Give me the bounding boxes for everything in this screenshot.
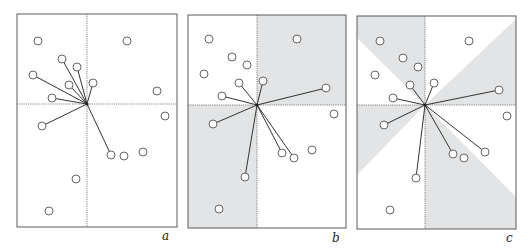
data-point bbox=[235, 79, 243, 87]
data-point bbox=[389, 94, 397, 102]
data-point bbox=[200, 70, 208, 78]
data-point bbox=[107, 151, 115, 159]
data-point bbox=[139, 148, 147, 156]
data-point bbox=[412, 174, 420, 182]
data-point bbox=[308, 146, 316, 154]
panel-label: b bbox=[332, 231, 340, 245]
panel-c: c bbox=[357, 16, 516, 245]
data-point bbox=[241, 173, 249, 181]
data-point bbox=[293, 35, 301, 43]
data-point bbox=[380, 121, 388, 129]
data-point bbox=[34, 37, 42, 45]
data-point bbox=[161, 112, 169, 120]
panel-a: a bbox=[17, 14, 177, 243]
neighbor-link bbox=[257, 105, 282, 153]
data-point bbox=[399, 54, 407, 62]
data-point bbox=[120, 152, 128, 160]
panel-frame bbox=[17, 14, 177, 227]
neighbor-link bbox=[42, 104, 87, 126]
panel-b: b bbox=[188, 15, 346, 245]
data-point bbox=[123, 37, 131, 45]
data-point bbox=[228, 53, 236, 61]
data-point bbox=[259, 77, 267, 85]
shaded-region bbox=[357, 105, 425, 175]
data-point bbox=[72, 175, 80, 183]
data-point bbox=[278, 149, 286, 157]
data-point bbox=[460, 154, 468, 162]
data-point bbox=[73, 63, 81, 71]
data-point bbox=[330, 110, 338, 118]
data-point bbox=[205, 35, 213, 43]
neighbor-link bbox=[416, 105, 425, 178]
neighbor-link bbox=[87, 104, 111, 155]
shaded-region bbox=[425, 105, 516, 229]
panel-label: a bbox=[162, 229, 169, 243]
data-point bbox=[243, 61, 251, 69]
data-point bbox=[430, 79, 438, 87]
data-point bbox=[495, 86, 503, 94]
data-point bbox=[322, 84, 330, 92]
data-point bbox=[503, 112, 511, 120]
neighbor-link bbox=[222, 96, 257, 105]
data-point bbox=[414, 63, 422, 71]
data-point bbox=[215, 205, 223, 213]
data-point bbox=[153, 87, 161, 95]
data-point bbox=[290, 154, 298, 162]
data-point bbox=[481, 148, 489, 156]
data-point bbox=[65, 81, 73, 89]
focal-point bbox=[423, 103, 426, 106]
focal-point bbox=[85, 102, 88, 105]
neighbor-link bbox=[257, 105, 294, 158]
data-point bbox=[48, 94, 56, 102]
data-point bbox=[29, 71, 37, 79]
focal-point bbox=[255, 103, 258, 106]
data-point bbox=[465, 37, 473, 45]
data-point bbox=[449, 150, 457, 158]
data-point bbox=[386, 206, 394, 214]
data-point bbox=[89, 79, 97, 87]
data-point bbox=[38, 122, 46, 130]
data-point bbox=[406, 81, 414, 89]
data-point bbox=[371, 71, 379, 79]
figure-canvas: a b c bbox=[0, 0, 529, 252]
shaded-region bbox=[257, 15, 346, 105]
panel-label: c bbox=[506, 231, 513, 245]
data-point bbox=[45, 207, 53, 215]
data-point bbox=[209, 120, 217, 128]
data-point bbox=[376, 37, 384, 45]
data-point bbox=[58, 55, 66, 63]
data-point bbox=[218, 92, 226, 100]
